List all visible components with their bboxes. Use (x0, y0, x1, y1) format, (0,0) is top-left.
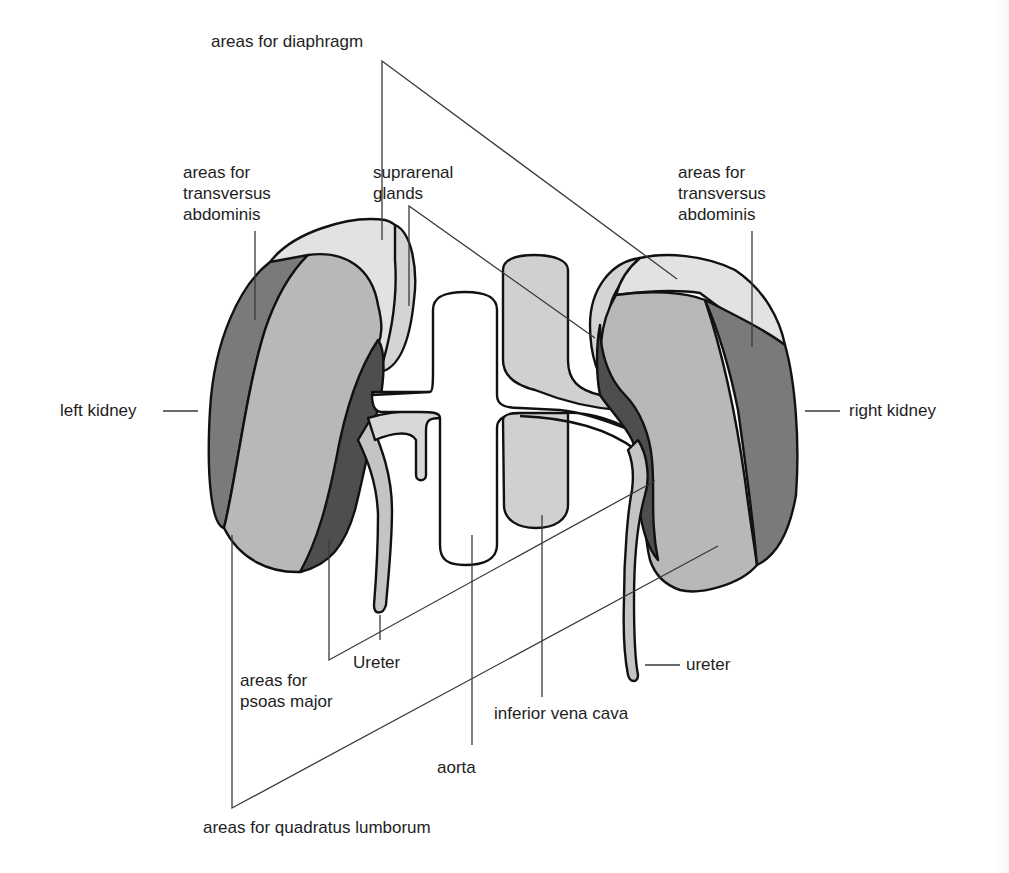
label-psoas: areas for psoas major (240, 670, 333, 712)
page-edge-shadow (995, 0, 1009, 873)
label-ureter-right: ureter (686, 654, 730, 675)
label-transversus-right-line1: areas for (678, 162, 766, 183)
label-aorta: aorta (437, 757, 476, 778)
label-right-kidney: right kidney (849, 400, 936, 421)
label-quadratus: areas for quadratus lumborum (203, 817, 431, 838)
kidney-relations-diagram (0, 0, 1009, 873)
right-kidney (590, 255, 797, 681)
inferior-vena-cava-lower (503, 413, 568, 528)
label-transversus-left-line1: areas for (183, 162, 271, 183)
label-left-kidney: left kidney (60, 400, 137, 421)
label-suprarenal-line2: glands (373, 183, 453, 204)
label-ivc: inferior vena cava (494, 703, 628, 724)
label-psoas-line2: psoas major (240, 691, 333, 712)
label-suprarenal: suprarenal glands (373, 162, 453, 204)
label-transversus-right-line2: transversus (678, 183, 766, 204)
right-ureter (624, 440, 648, 681)
label-diaphragm: areas for diaphragm (211, 31, 363, 52)
label-transversus-left: areas for transversus abdominis (183, 162, 271, 225)
label-transversus-right: areas for transversus abdominis (678, 162, 766, 225)
left-ureter (358, 420, 392, 613)
label-transversus-left-line3: abdominis (183, 204, 271, 225)
label-psoas-line1: areas for (240, 670, 333, 691)
label-transversus-right-line3: abdominis (678, 204, 766, 225)
label-ureter-left: Ureter (353, 652, 400, 673)
label-suprarenal-line1: suprarenal (373, 162, 453, 183)
label-transversus-left-line2: transversus (183, 183, 271, 204)
